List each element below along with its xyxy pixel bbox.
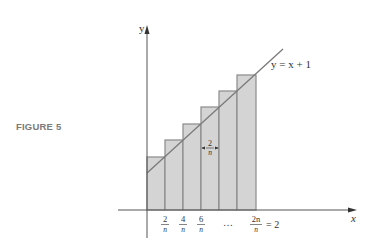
svg-text:= 2: = 2 (266, 219, 279, 230)
svg-text:2n: 2n (252, 214, 261, 224)
tick-last: 2n n = 2 (250, 214, 279, 234)
rectangle-2 (165, 140, 183, 210)
svg-text:n: n (181, 225, 185, 234)
line-label: y = x + 1 (271, 58, 311, 70)
rectangle-4 (201, 107, 219, 210)
x-axis-label: x (350, 212, 356, 224)
rectangle-6 (237, 75, 256, 210)
y-axis-arrow-icon (145, 25, 150, 34)
tick-4-over-n: 4 n (179, 214, 187, 234)
svg-text:n: n (199, 225, 203, 234)
svg-text:4: 4 (181, 214, 186, 224)
rectangle-5 (219, 91, 237, 210)
svg-text:2: 2 (163, 214, 167, 224)
svg-text:n: n (163, 225, 167, 234)
tick-6-over-n: 6 n (197, 214, 205, 234)
riemann-sum-diagram: y x y = x + 1 2 n 2 n 4 n 6 n … 2n n = 2 (0, 0, 369, 251)
y-axis-label: y (139, 22, 145, 34)
svg-text:n: n (254, 225, 258, 234)
tick-2-over-n: 2 n (161, 214, 169, 234)
svg-text:n: n (208, 148, 212, 157)
rectangles (147, 75, 256, 210)
svg-text:6: 6 (199, 214, 203, 224)
tick-ellipsis: … (223, 217, 233, 228)
svg-text:2: 2 (208, 139, 212, 148)
